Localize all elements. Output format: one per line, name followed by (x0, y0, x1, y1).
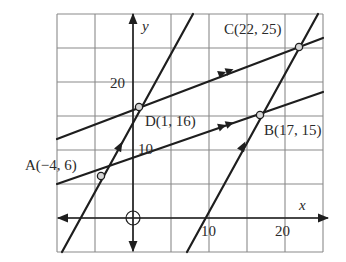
double-arrow-icon (217, 119, 235, 132)
line-AD (62, 14, 193, 252)
y-tick-10: 10 (138, 141, 153, 157)
point-A (97, 172, 104, 179)
coordinate-diagram: y x 20 10 10 20 A(−4, 6) B(17, 15) C(22,… (0, 0, 346, 262)
x-tick-10: 10 (201, 223, 216, 239)
point-B (256, 111, 263, 118)
x-tick-20: 20 (275, 223, 290, 239)
x-axis-label: x (298, 197, 306, 213)
point-D (135, 103, 142, 110)
line-AB (57, 92, 323, 184)
y-axis-label: y (140, 18, 149, 34)
point-C (295, 43, 302, 50)
label-D: D(1, 16) (145, 113, 196, 130)
label-A: A(−4, 6) (25, 157, 77, 174)
label-C: C(22, 25) (224, 21, 282, 38)
label-B: B(17, 15) (264, 122, 322, 139)
y-tick-20: 20 (110, 75, 125, 91)
